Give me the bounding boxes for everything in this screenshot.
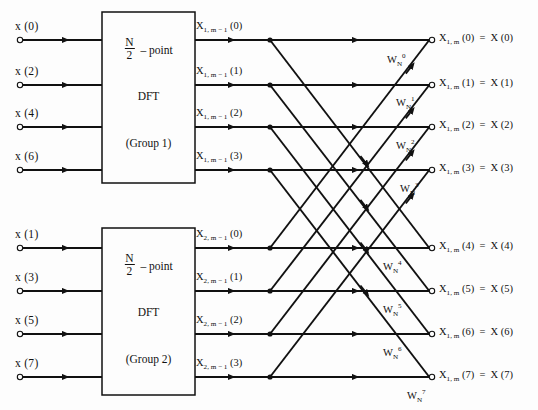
input-terminal-3 — [17, 167, 22, 172]
input-label-6: x (5) — [15, 314, 39, 326]
branch-node-1 — [267, 82, 272, 87]
output-label-7: X1, m (7) = X (7) — [439, 369, 513, 383]
output-label-0: X1, m (0) = X (0) — [439, 32, 513, 46]
intermediate-label-7: X2, m − 1 (3) — [196, 357, 242, 371]
intermediate-label-2: X1, m − 1 (2) — [196, 107, 242, 121]
input-terminal-0 — [17, 37, 22, 42]
output-label-5: X1, m (5) = X (5) — [439, 283, 513, 297]
twiddle-factor-4: WN4 — [383, 259, 402, 275]
intermediate-label-3: X1, m − 1 (3) — [196, 150, 242, 164]
input-label-0: x (0) — [15, 20, 39, 32]
input-label-5: x (3) — [15, 271, 39, 283]
branch-node-0 — [267, 37, 272, 42]
input-label-4: x (1) — [15, 228, 39, 240]
fft-butterfly-diagram: x (0)x (2)x (4)x (6)x (1)x (3)x (5)x (7)… — [0, 0, 538, 410]
output-label-3: X1, m (3) = X (3) — [439, 162, 513, 176]
twiddle-factor-1: WN1 — [396, 95, 415, 111]
twiddle-factor-5: WN5 — [383, 302, 402, 318]
dft-box-1-order-label: N2 – point — [124, 36, 172, 61]
twiddle-factor-7: WN7 — [407, 388, 426, 404]
dft-box-2-order-label: N2 – point — [124, 252, 172, 277]
branch-node-6 — [267, 331, 272, 336]
output-terminal-7 — [429, 374, 434, 379]
dft-box-2-group-label: (Group 2) — [126, 353, 172, 365]
twiddle-factor-0: WN0 — [387, 52, 406, 68]
input-label-3: x (6) — [15, 150, 39, 162]
output-label-6: X1, m (6) = X (6) — [439, 326, 513, 340]
input-label-2: x (4) — [15, 107, 39, 119]
output-label-1: X1, m (1) = X (1) — [439, 77, 513, 91]
input-terminal-2 — [17, 124, 22, 129]
output-label-4: X1, m (4) = X (4) — [439, 240, 513, 254]
intermediate-label-6: X2, m − 1 (2) — [196, 314, 242, 328]
input-label-1: x (2) — [15, 65, 39, 77]
signal-flow-wires — [0, 0, 538, 410]
output-terminal-0 — [429, 37, 434, 42]
input-label-7: x (7) — [15, 357, 39, 369]
branch-node-4 — [267, 245, 272, 250]
output-terminal-1 — [429, 82, 434, 87]
input-terminal-1 — [17, 82, 22, 87]
branch-node-2 — [267, 124, 272, 129]
input-terminal-7 — [17, 374, 22, 379]
input-terminal-5 — [17, 288, 22, 293]
dft-box-1-title: DFT — [138, 90, 160, 102]
output-label-2: X1, m (2) = X (2) — [439, 119, 513, 133]
output-terminal-6 — [429, 331, 434, 336]
output-terminal-3 — [429, 167, 434, 172]
intermediate-label-5: X2, m − 1 (1) — [196, 271, 242, 285]
intermediate-label-1: X1, m − 1 (1) — [196, 65, 242, 79]
intermediate-label-0: X1, m − 1 (0) — [196, 20, 242, 34]
input-terminal-4 — [17, 245, 22, 250]
branch-node-5 — [267, 288, 272, 293]
intermediate-label-4: X2, m − 1 (0) — [196, 228, 242, 242]
dft-box-2-title: DFT — [138, 306, 160, 318]
twiddle-factor-3: WN3 — [400, 181, 419, 197]
output-terminal-4 — [429, 245, 434, 250]
output-terminal-5 — [429, 288, 434, 293]
branch-node-7 — [267, 374, 272, 379]
input-terminal-6 — [17, 331, 22, 336]
twiddle-factor-2: WN2 — [396, 138, 415, 154]
branch-node-3 — [267, 167, 272, 172]
dft-box-1-group-label: (Group 1) — [126, 137, 172, 149]
twiddle-factor-6: WN6 — [383, 345, 402, 361]
output-terminal-2 — [429, 124, 434, 129]
